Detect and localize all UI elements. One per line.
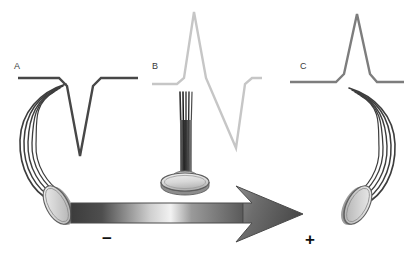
figure-canvas: A B: [0, 0, 412, 254]
cable-bundle-right: [349, 88, 395, 204]
panel-b: B: [152, 12, 262, 195]
electrode-waveform-figure: A B: [0, 0, 412, 254]
panel-c: C: [290, 14, 404, 230]
waveform-trace-b: [152, 12, 262, 148]
disc-electrode-center: [161, 171, 209, 195]
minus-sign: −: [102, 229, 112, 248]
panel-label-c: C: [300, 61, 307, 71]
plus-sign: +: [305, 230, 315, 249]
panel-label-a: A: [14, 61, 20, 71]
disc-electrode-right: [335, 180, 377, 230]
waveform-trace-c: [290, 14, 404, 82]
cable-bundle-left: [20, 84, 66, 200]
panel-label-b: B: [152, 61, 158, 71]
cable-bundle-center: [180, 92, 192, 172]
